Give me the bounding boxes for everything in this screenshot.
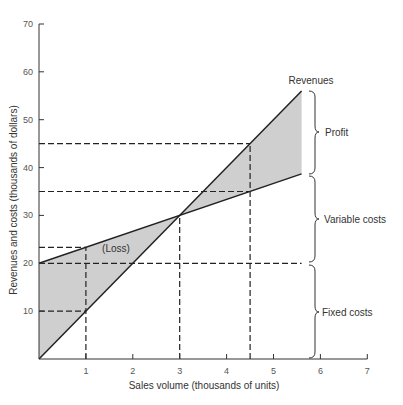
x-tick-label: 7 [365,366,370,376]
x-tick-label: 1 [83,366,88,376]
x-axis-title: Sales volume (thousands of units) [129,380,280,391]
loss-label: (Loss) [102,243,130,254]
y-tick-label: 50 [23,115,33,125]
y-tick-label: 10 [23,306,33,316]
variable-costs-brace [309,176,319,262]
variable-costs-label: Variable costs [324,214,386,225]
revenues-line [39,91,302,359]
y-axis-title: Revenues and costs (thousands of dollars… [8,105,19,295]
x-tick-label: 2 [130,366,135,376]
braces [309,91,319,358]
y-tick-label: 60 [23,67,33,77]
x-tick-label: 6 [318,366,323,376]
y-tick-label: 30 [23,210,33,220]
y-tick-label: 20 [23,258,33,268]
x-tick-label: 5 [271,366,276,376]
revenues-label: Revenues [288,75,333,86]
total-costs-line [39,174,302,263]
y-tick-label: 40 [23,163,33,173]
profit-brace [309,91,319,174]
break-even-chart: 10 20 30 40 50 60 70 1 2 3 4 5 6 7 Sales… [0,0,403,405]
fixed-costs-brace [309,265,319,358]
profit-label: Profit [325,127,349,138]
x-tick-label: 4 [224,366,229,376]
x-tick-label: 3 [177,366,182,376]
y-tick-label: 70 [23,19,33,29]
fixed-costs-label: Fixed costs [322,307,373,318]
